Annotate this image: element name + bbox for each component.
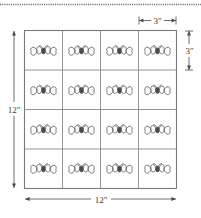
dimension-label-right: 3" bbox=[185, 46, 194, 56]
dimension-label-bottom: 12" bbox=[95, 195, 108, 205]
dimension-left: 12" bbox=[5, 31, 24, 188]
dimension-top-right: 3" bbox=[139, 14, 176, 27]
dimension-bottom: 12" bbox=[25, 192, 176, 206]
dimension-label-top-right: 3" bbox=[153, 16, 162, 26]
dimension-label-left: 12" bbox=[8, 105, 21, 115]
diagram-canvas: 3" bbox=[0, 0, 201, 218]
dimension-right: 3" bbox=[183, 31, 196, 70]
quilt-layout-diagram: 3" bbox=[0, 0, 201, 218]
